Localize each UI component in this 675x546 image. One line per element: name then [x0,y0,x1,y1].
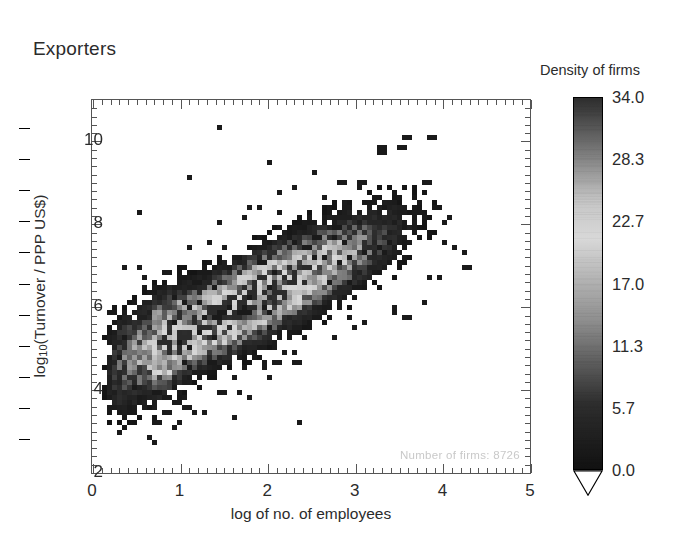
x-tick-label: 3 [350,481,359,501]
x-tick-top [128,100,129,105]
x-tick-top [496,100,497,105]
x-tick-top [172,100,173,105]
y-tick-right [525,365,530,366]
colorbar-minor-tick [19,346,30,347]
colorbar-tick-label: 17.0 [612,274,644,293]
y-tick-right [525,465,530,466]
y-tick-right [525,257,530,258]
x-tick-bottom [111,468,112,473]
y-tick-label: 4 [77,379,103,399]
y-tick-right [525,374,530,375]
x-tick-top [251,100,252,105]
x-tick-top [111,100,112,105]
x-tick-label: 4 [438,481,447,501]
x-tick-bottom [338,468,339,473]
y-tick-left [92,175,97,176]
x-tick-top [338,100,339,105]
x-tick-bottom [365,468,366,473]
page-title: Exporters [33,38,116,60]
x-tick-bottom [137,468,138,473]
y-tick-left [92,125,97,126]
y-axis-title: log10(Turnover / PPP US$) [31,126,49,446]
x-tick-bottom [286,468,287,473]
x-tick-bottom [452,468,453,473]
y-tick-right [525,440,530,441]
colorbar-minor-tick [19,252,30,253]
x-tick-top [391,100,392,105]
y-tick-left [92,340,97,341]
x-tick-top [189,100,190,105]
colorbar-minor-tick [19,128,30,129]
x-tick-top [461,100,462,105]
x-tick-top [347,100,348,105]
x-tick-bottom [128,468,129,473]
y-tick-right [525,423,530,424]
x-tick-bottom [487,468,488,473]
x-tick-bottom [461,468,462,473]
y-tick-right [525,291,530,292]
x-tick-bottom [496,468,497,473]
x-tick-top [487,100,488,105]
y-tick-left [92,448,97,449]
figure-root: Exporters Number of firms: 8726 012345 2… [0,0,675,546]
y-tick-right [525,382,530,383]
y-tick-left [92,324,97,325]
density-heatmap [92,100,530,473]
y-tick-left [92,440,97,441]
y-tick-left [92,357,97,358]
x-tick-bottom [426,468,427,473]
y-tick-label: 2 [77,462,103,482]
x-tick-bottom [294,468,295,473]
y-tick-left [92,266,97,267]
x-tick-top [303,100,304,105]
y-tick-left [92,166,97,167]
y-tick-left [92,349,97,350]
y-tick-right [525,199,530,200]
x-tick-bottom [382,468,383,473]
x-tick-top [408,100,409,105]
colorbar-minor-tick [19,408,30,409]
x-tick-top [478,100,479,105]
colorbar-underflow-arrow [573,470,603,496]
x-tick-top [470,100,471,105]
x-tick-top [259,100,260,105]
x-tick-top [198,100,199,105]
x-tick-bottom [181,464,182,473]
x-tick-top [435,100,436,105]
x-tick-top [233,100,234,105]
y-tick-left [92,208,97,209]
x-tick-top [312,100,313,105]
y-tick-left [92,183,97,184]
density-plot-canvas-wrapper [92,100,530,473]
colorbar-tick-label: 22.7 [612,212,644,231]
y-tick-right [525,316,530,317]
x-tick-bottom [172,468,173,473]
x-tick-top [400,100,401,105]
y-tick-left [92,282,97,283]
y-tick-left [92,158,97,159]
y-tick-label: 10 [77,130,103,150]
y-tick-right [525,158,530,159]
y-tick-left [92,191,97,192]
x-tick-bottom [198,468,199,473]
x-tick-top [216,100,217,105]
y-tick-right [525,266,530,267]
x-tick-bottom [321,468,322,473]
y-tick-right [525,108,530,109]
colorbar-minor-tick [19,190,30,191]
x-tick-top [277,100,278,105]
x-tick-top [365,100,366,105]
x-tick-bottom [400,468,401,473]
y-tick-right [525,233,530,234]
x-tick-top [531,100,532,109]
y-tick-left [92,199,97,200]
y-tick-right [525,183,530,184]
y-tick-right [525,332,530,333]
x-tick-bottom [443,464,444,473]
x-tick-label: 2 [262,481,271,501]
colorbar-minor-tick [19,159,30,160]
x-tick-bottom [207,468,208,473]
x-tick-top [181,100,182,109]
x-tick-top [163,100,164,105]
x-tick-bottom [233,468,234,473]
